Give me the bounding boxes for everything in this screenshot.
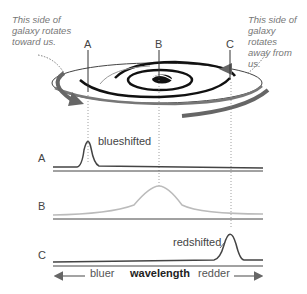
note-away-from-us: This side of galaxy rotates away from us… — [248, 14, 307, 69]
spectrum-a — [53, 141, 263, 171]
point-label-a: A — [84, 38, 91, 50]
spectrum-label-a: A — [38, 152, 45, 164]
redshifted-annotation: redshifted — [173, 236, 221, 248]
spectrum-b — [53, 186, 263, 219]
spectrum-label-b: B — [38, 200, 45, 212]
galaxy-doppler-diagram: This side of galaxy rotates toward us. T… — [0, 0, 307, 294]
axis-label-bluer: bluer — [90, 267, 114, 279]
axis-label-wavelength: wavelength — [130, 267, 190, 279]
left-note-leader — [38, 55, 64, 73]
point-label-c: C — [226, 38, 234, 50]
spectrum-label-c: C — [38, 249, 46, 261]
note-toward-us: This side of galaxy rotates toward us. — [12, 14, 71, 47]
blueshifted-annotation: blueshifted — [98, 135, 151, 147]
axis-label-redder: redder — [198, 267, 230, 279]
spectrum-c — [53, 234, 263, 266]
point-label-b: B — [155, 38, 162, 50]
